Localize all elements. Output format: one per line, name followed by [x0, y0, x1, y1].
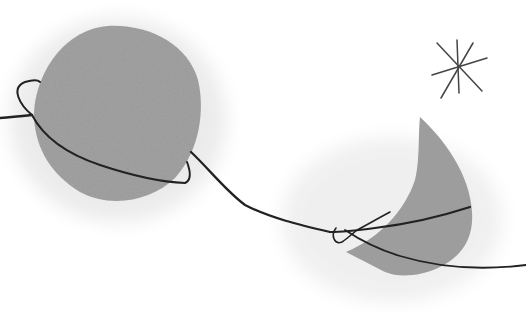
star: [432, 40, 487, 98]
planet: [34, 26, 201, 201]
artwork-canvas: [0, 0, 526, 313]
